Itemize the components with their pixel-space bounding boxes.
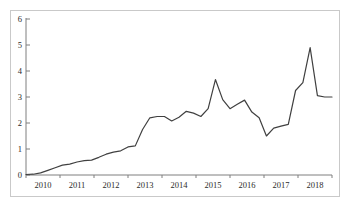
y-tick-label: 6 xyxy=(8,15,22,24)
axis-layer xyxy=(26,18,332,178)
series-layer xyxy=(26,48,332,175)
x-tick-label: 2011 xyxy=(61,181,93,190)
x-tick-label: 2013 xyxy=(129,181,161,190)
x-tick-label: 2014 xyxy=(163,181,195,190)
y-tick-label: 1 xyxy=(8,145,22,154)
y-tick-label: 4 xyxy=(8,67,22,76)
data-line-series-1 xyxy=(26,48,332,175)
x-tick-label: 2015 xyxy=(197,181,229,190)
x-tick-label: 2012 xyxy=(95,181,127,190)
y-tick-label: 2 xyxy=(8,119,22,128)
y-tick-label: 0 xyxy=(8,171,22,180)
x-tick-label: 2017 xyxy=(265,181,297,190)
x-tick-label: 2018 xyxy=(299,181,331,190)
chart-canvas xyxy=(0,0,350,207)
x-tick-label: 2010 xyxy=(27,181,59,190)
line-chart: 0123456 20102011201220132014201520162017… xyxy=(0,0,350,207)
y-tick-label: 5 xyxy=(8,41,22,50)
x-tick-label: 2016 xyxy=(231,181,263,190)
y-tick-label: 3 xyxy=(8,93,22,102)
